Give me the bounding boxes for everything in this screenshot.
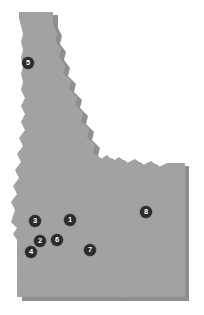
map-marker-7[interactable]: 7 — [84, 244, 96, 256]
map-marker-4[interactable]: 4 — [25, 246, 37, 258]
map-marker-3[interactable]: 3 — [29, 215, 41, 227]
map-marker-6[interactable]: 6 — [51, 234, 63, 246]
map-marker-1[interactable]: 1 — [64, 214, 76, 226]
map-graphic — [0, 0, 204, 315]
map-marker-8[interactable]: 8 — [140, 206, 152, 218]
idaho-map-figure: 1 2 3 4 5 6 7 8 — [0, 0, 204, 315]
map-marker-5[interactable]: 5 — [22, 57, 34, 69]
map-marker-2[interactable]: 2 — [34, 235, 46, 247]
